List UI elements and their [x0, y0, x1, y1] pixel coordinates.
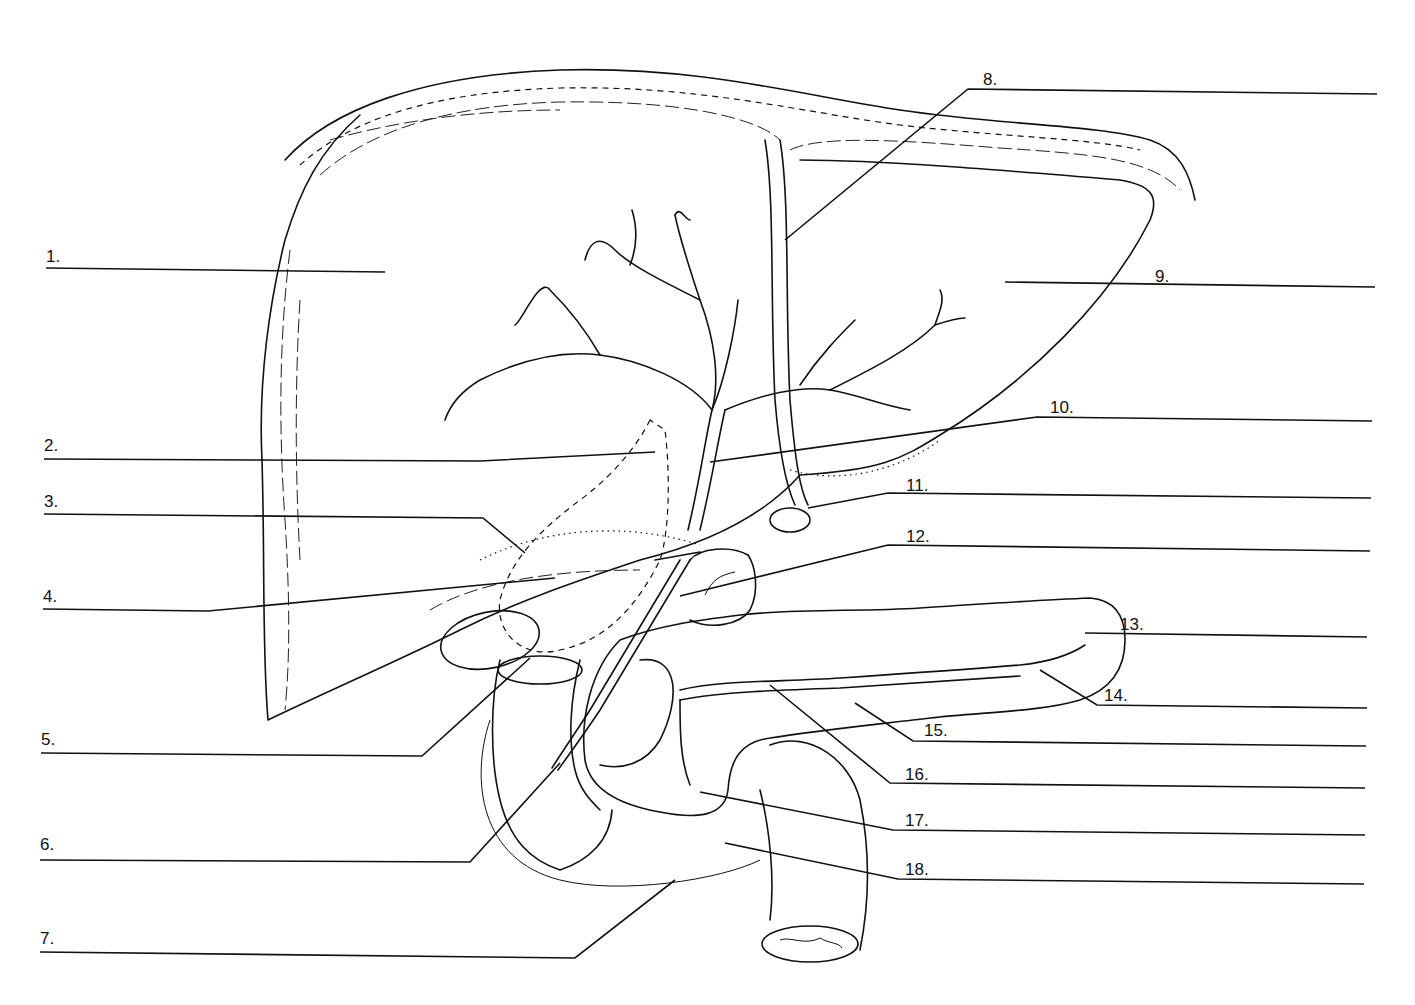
label-6: 6. [40, 836, 54, 853]
vessel-cut [655, 549, 756, 625]
label-18: 18. [905, 861, 929, 878]
round-ligament-cut [770, 508, 810, 532]
duodenum [481, 560, 760, 886]
label-13: 13. [1120, 616, 1144, 633]
label-2: 2. [44, 437, 58, 454]
label-16: 16. [905, 766, 929, 783]
label-1: 1. [46, 248, 60, 265]
gallbladder [430, 420, 700, 678]
label-15: 15. [924, 722, 948, 739]
label-14: 14. [1104, 687, 1128, 704]
diaphragm [285, 70, 1195, 200]
liver [261, 110, 1154, 720]
label-4: 4. [43, 588, 57, 605]
label-7: 7. [40, 930, 54, 947]
label-11: 11. [906, 477, 928, 494]
label-9: 9. [1155, 268, 1169, 285]
anatomy-drawing [0, 0, 1415, 1005]
label-10: 10. [1050, 399, 1074, 416]
anatomy-diagram: 1. 2. 3. 4. 5. 6. 7. 8. 9. 10. 11. 12. 1… [0, 0, 1415, 1005]
leader-lines [40, 89, 1377, 958]
jejunum [760, 741, 868, 962]
label-17: 17. [905, 812, 929, 829]
label-12: 12. [906, 528, 930, 545]
label-5: 5. [41, 731, 55, 748]
label-3: 3. [44, 493, 58, 510]
label-8: 8. [983, 71, 997, 88]
bile-duct-tree [445, 210, 965, 530]
